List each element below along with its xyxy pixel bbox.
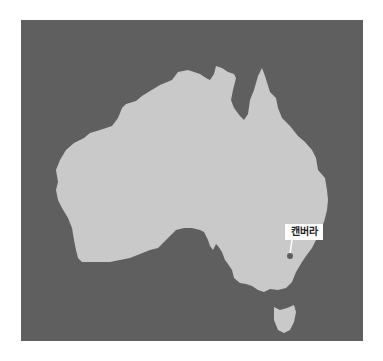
canberra-marker-dot[interactable] xyxy=(287,253,293,259)
mainland-australia xyxy=(56,66,328,292)
canberra-label: 캔버라 xyxy=(285,224,323,240)
tasmania xyxy=(274,305,296,333)
australia-map xyxy=(0,0,383,361)
